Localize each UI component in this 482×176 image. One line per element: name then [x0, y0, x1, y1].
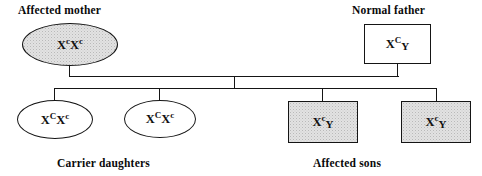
symbol-daughter-2-carrier-female[interactable]: XCXc — [124, 100, 196, 138]
pedigree-diagram: Affected mother Normal father Carrier da… — [0, 0, 482, 176]
label-affected-mother: Affected mother — [18, 5, 101, 17]
daughter-1-allele-1: X — [41, 112, 50, 126]
mother-allele-1: X — [57, 37, 66, 51]
mother-superscript-1: c — [66, 35, 70, 45]
son-1-allele-2: Y — [326, 117, 334, 129]
symbol-daughter-1-carrier-female[interactable]: XCXc — [17, 100, 93, 139]
symbol-mother-affected-female[interactable]: XcXc — [22, 23, 118, 66]
daughter-1-superscript-1: C — [50, 110, 57, 120]
genotype-son-2: XcY — [402, 116, 470, 129]
genotype-mother: XcXc — [23, 38, 117, 51]
connector-son-1-drop — [322, 88, 323, 102]
father-allele-1: X — [386, 37, 395, 51]
connector-sibship-line — [54, 88, 437, 89]
daughter-1-superscript-2: c — [65, 110, 69, 120]
genotype-daughter-2: XCXc — [125, 113, 195, 126]
genotype-son-1: XcY — [289, 116, 357, 129]
symbol-son-1-affected-male[interactable]: XcY — [288, 101, 358, 143]
daughter-2-superscript-1: C — [155, 110, 162, 120]
genotype-daughter-1: XCXc — [18, 113, 92, 126]
mother-superscript-2: c — [79, 35, 83, 45]
symbol-son-2-affected-male[interactable]: XcY — [401, 101, 471, 143]
label-affected-sons: Affected sons — [313, 158, 381, 170]
symbol-father-unaffected-male[interactable]: XCY — [364, 24, 431, 64]
son-2-allele-1: X — [426, 115, 435, 129]
daughter-2-allele-1: X — [146, 112, 155, 126]
label-carrier-daughters: Carrier daughters — [57, 158, 150, 170]
daughter-1-allele-2: X — [56, 112, 65, 126]
son-2-allele-2: Y — [439, 117, 447, 129]
genotype-father: XCY — [365, 38, 430, 51]
connector-son-2-drop — [436, 88, 437, 102]
daughter-2-superscript-2: c — [170, 110, 174, 120]
connector-father-drop — [397, 63, 398, 77]
daughter-2-allele-2: X — [161, 112, 170, 126]
son-2-superscript-1: c — [435, 113, 439, 123]
father-allele-2: Y — [401, 39, 409, 51]
mother-allele-2: X — [70, 37, 79, 51]
son-1-superscript-1: c — [322, 113, 326, 123]
father-superscript-1: C — [395, 35, 402, 45]
son-1-allele-1: X — [313, 115, 322, 129]
label-normal-father: Normal father — [352, 5, 425, 17]
